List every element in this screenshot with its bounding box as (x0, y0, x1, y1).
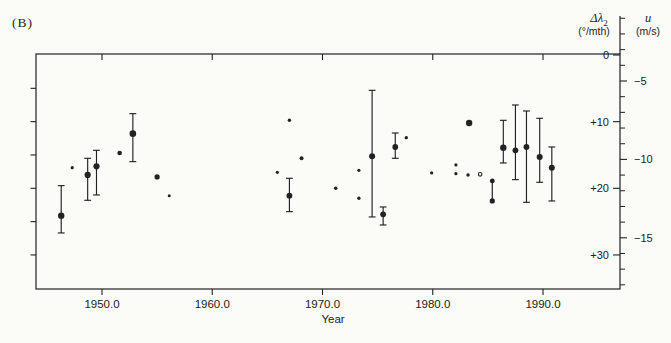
data-point (58, 212, 64, 218)
dlambda-symbol: Δλ (590, 11, 603, 25)
data-point (490, 179, 495, 184)
plot-frame (36, 54, 620, 289)
data-point (369, 153, 375, 159)
dlambda-tick-label: +30 (590, 249, 609, 261)
data-point (155, 174, 160, 179)
data-point (357, 169, 360, 172)
data-point (513, 147, 519, 153)
data-point (454, 172, 457, 175)
data-point (490, 198, 495, 203)
x-tick-label: 1970.0 (305, 298, 340, 310)
x-tick-label: 1990.0 (525, 298, 560, 310)
figure-label: (B) (12, 15, 33, 31)
data-point (524, 144, 530, 150)
data-point (288, 119, 291, 122)
data-point (85, 172, 91, 178)
data-point (130, 130, 137, 137)
right-axis-secondary-unit: (m/s) (626, 25, 670, 37)
data-point (334, 187, 338, 191)
x-tick-label: 1960.0 (195, 298, 230, 310)
data-point (466, 120, 472, 126)
data-point (300, 156, 304, 160)
data-point (276, 171, 279, 174)
data-point (537, 154, 543, 160)
right-axis-primary-unit: (°/mth) (564, 25, 624, 37)
x-tick-label: 1950.0 (84, 298, 119, 310)
u-tick-label: −15 (634, 232, 653, 244)
dlambda-tick-label: +10 (590, 116, 609, 128)
data-point (466, 173, 469, 176)
data-point (392, 144, 398, 150)
data-point (93, 163, 99, 169)
dlambda-tick-label: 0 (603, 49, 609, 61)
dlambda-tick-label: +20 (590, 182, 609, 194)
right-axis-secondary-title: u (626, 11, 670, 26)
data-point-open (478, 173, 482, 177)
data-point (168, 194, 171, 197)
data-point (549, 165, 555, 171)
x-axis-title: Year (303, 313, 363, 325)
data-point (454, 163, 457, 166)
data-point (500, 144, 506, 150)
data-point (71, 166, 74, 169)
data-point (117, 151, 122, 156)
data-point (380, 211, 386, 217)
u-tick-label: −5 (634, 75, 647, 87)
data-point (430, 171, 433, 174)
scatter-plot-canvas: 1950.01960.01970.01980.01990.00+10+20+30… (0, 0, 671, 343)
data-point (287, 193, 293, 199)
x-tick-label: 1980.0 (415, 298, 450, 310)
figure-panel-b: 1950.01960.01970.01980.01990.00+10+20+30… (0, 0, 671, 343)
data-point (405, 136, 408, 139)
u-tick-label: −10 (634, 153, 653, 165)
data-point (357, 197, 360, 200)
